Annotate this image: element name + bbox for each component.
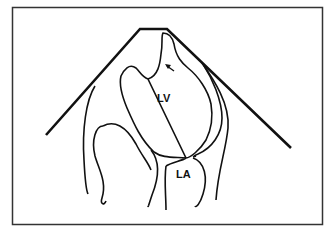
la-right-wall — [193, 158, 205, 207]
label-la: LA — [176, 168, 191, 180]
sector-outline — [46, 29, 291, 148]
la-left-wall — [165, 166, 166, 210]
aortic-wall — [148, 150, 158, 207]
rv-septum — [103, 124, 151, 170]
label-lv: LV — [157, 92, 171, 104]
rv-outline — [94, 126, 106, 204]
diagram-canvas: LV LA — [0, 0, 334, 234]
frame-border — [13, 8, 323, 225]
